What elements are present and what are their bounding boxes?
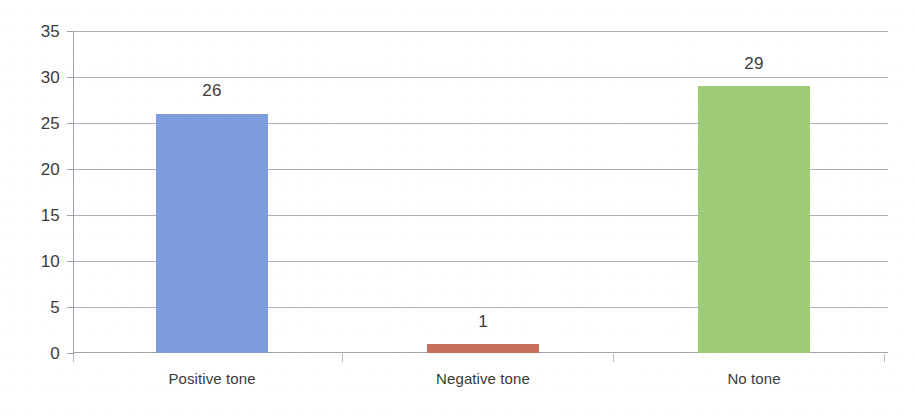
x-tick-mark-1 xyxy=(342,354,343,362)
x-axis-label-no-tone: No tone xyxy=(674,371,834,386)
gridline-35 xyxy=(73,31,888,32)
y-tick-label-10: 10 xyxy=(20,253,60,270)
x-axis-label-positive-tone: Positive tone xyxy=(132,371,292,386)
y-tick-label-0: 0 xyxy=(20,345,60,362)
bar-value-label-no-tone: 29 xyxy=(698,55,810,72)
x-axis-label-negative-tone: Negative tone xyxy=(403,371,563,386)
x-tick-mark-3 xyxy=(884,354,885,362)
bar-negative-tone[interactable] xyxy=(427,344,539,353)
y-tick-label-35: 35 xyxy=(20,23,60,40)
bar-value-label-negative-tone: 1 xyxy=(427,313,539,330)
bar-no-tone[interactable] xyxy=(698,86,810,353)
y-axis-tick-labels: 35 30 25 20 15 10 5 0 xyxy=(0,0,60,420)
plot-area xyxy=(73,31,888,353)
y-tick-label-30: 30 xyxy=(20,69,60,86)
x-tick-mark-0 xyxy=(73,354,74,362)
x-tick-mark-2 xyxy=(613,354,614,362)
bar-value-label-positive-tone: 26 xyxy=(156,82,268,99)
y-tick-label-5: 5 xyxy=(20,299,60,316)
bar-chart: 35 30 25 20 15 10 5 0 26 1 29 P xyxy=(0,0,915,420)
y-tick-label-25: 25 xyxy=(20,115,60,132)
y-tick-label-20: 20 xyxy=(20,161,60,178)
gridline-30 xyxy=(73,77,888,78)
bar-positive-tone[interactable] xyxy=(156,114,268,353)
y-tick-label-15: 15 xyxy=(20,207,60,224)
